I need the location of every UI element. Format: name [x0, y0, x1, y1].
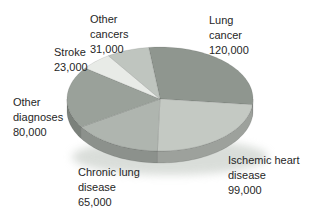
- label-lung-cancer: Lung cancer 120,000: [209, 13, 249, 58]
- pie-chart-figure: Other cancers 31,000 Lung cancer 120,000…: [0, 0, 311, 211]
- label-chronic-lung-disease: Chronic lung disease 65,000: [78, 165, 140, 210]
- label-other-diagnoses: Other diagnoses 80,000: [13, 95, 63, 140]
- pie-slice-ischemic: [157, 99, 252, 151]
- label-ischemic-heart-disease: Ischemic heart disease 99,000: [228, 153, 300, 198]
- label-stroke: Stroke 23,000: [54, 45, 88, 75]
- label-other-cancers: Other cancers 31,000: [90, 12, 129, 57]
